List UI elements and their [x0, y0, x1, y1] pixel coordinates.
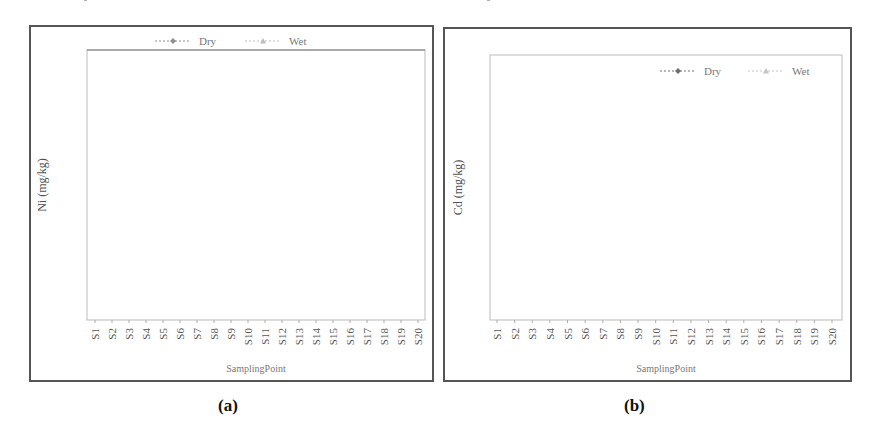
y-tick-label: 10 — [467, 0, 480, 3]
x-tick-label: S12 — [685, 328, 697, 345]
legend-label-dry: Dry — [704, 65, 722, 77]
legend: DryWet — [660, 65, 809, 77]
x-tick-label: S20 — [826, 328, 838, 346]
x-tick-label: S5 — [562, 328, 574, 340]
x-tick-label: S8 — [614, 328, 626, 340]
legend-label-wet: Wet — [792, 65, 809, 77]
caption-b: (b) — [624, 396, 645, 416]
x-tick-label: S17 — [773, 328, 785, 346]
y-axis-label: Cd (mg/kg) — [451, 160, 465, 216]
caption-a: (a) — [218, 396, 238, 416]
x-tick-label: S15 — [738, 328, 750, 346]
legend-marker-dry — [675, 68, 681, 74]
x-tick-label: S11 — [667, 328, 679, 345]
x-tick-label: S9 — [632, 328, 644, 340]
x-tick-label: S1 — [491, 328, 503, 340]
x-tick-label: S14 — [720, 328, 732, 346]
x-tick-label: S3 — [526, 328, 538, 340]
x-tick-label: S13 — [703, 328, 715, 346]
x-tick-label: S19 — [808, 328, 820, 346]
x-tick-label: S16 — [755, 328, 767, 346]
cd-chart: 0246810S1S2S3S4S5S6S7S8S9S10S11S12S13S14… — [0, 0, 871, 434]
x-tick-label: S6 — [579, 328, 591, 340]
x-tick-label: S10 — [650, 328, 662, 346]
plot-area — [490, 55, 842, 320]
x-tick-label: S2 — [509, 328, 521, 340]
x-tick-label: S4 — [544, 328, 556, 340]
x-axis-label: SamplingPoint — [636, 363, 696, 374]
x-tick-label: S18 — [791, 328, 803, 346]
x-tick-label: S7 — [597, 328, 609, 340]
